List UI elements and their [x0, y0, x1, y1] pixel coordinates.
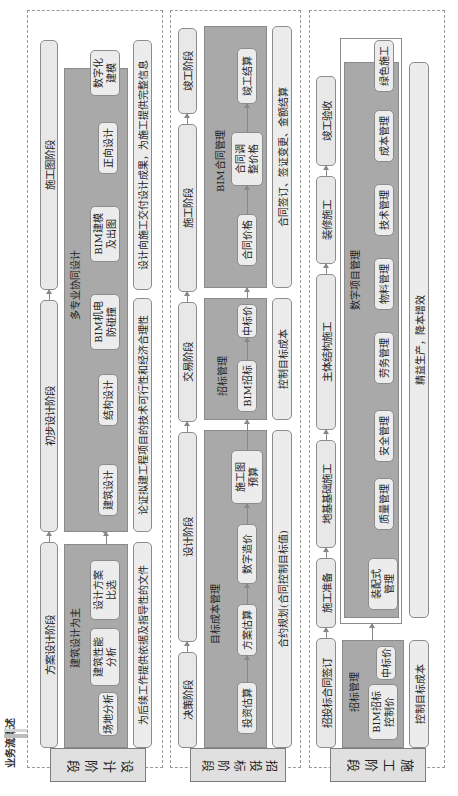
item-quality-management: 质量管理	[374, 478, 394, 530]
item-building-performance: 建筑性能 分析	[90, 628, 120, 686]
stage-label-design: 设计阶段	[50, 748, 146, 782]
note-control-cost-2: 控制目标成本	[409, 640, 429, 748]
arrow-icon	[106, 532, 107, 544]
phase-transaction: 交易阶段	[178, 302, 197, 422]
group-label: 招标管理	[346, 672, 361, 712]
arrow-icon	[187, 642, 188, 652]
phase-contract-signing: 招投标合同签订	[316, 638, 336, 748]
item-bim-control-price: BIM招标 控制价	[368, 684, 398, 740]
arrow-icon	[247, 104, 248, 132]
diagram-canvas: 业务流概述 设计阶段 方案设计阶段 初步设计阶段 施工图阶段 建筑设计为主 场地…	[0, 0, 458, 796]
item-scheme-estimate: 方案估算	[237, 604, 257, 656]
arrow-icon	[247, 288, 248, 298]
phase-construction: 施工阶段	[178, 124, 197, 292]
page-title: 业务流概述	[2, 718, 17, 768]
phase-completion: 竣工阶段	[178, 28, 197, 114]
arrow-icon	[247, 656, 248, 682]
arrow-icon	[247, 584, 248, 604]
phase-main-structure: 主体结构施工	[316, 274, 336, 430]
arrow-icon	[326, 264, 327, 274]
note-control-cost: 控制目标成本	[272, 298, 292, 420]
item-scheme-comparison: 设计方案 比选	[90, 560, 120, 620]
item-adjusted-price: 合同调 整价格	[231, 132, 263, 186]
arrow-icon	[187, 114, 188, 124]
item-site-analysis: 场地分析	[98, 692, 118, 736]
phase-preparation: 施工准备	[316, 558, 336, 628]
item-contract-price: 合同价格	[237, 214, 257, 266]
decorative-stripe	[4, 734, 28, 738]
arrow-icon	[326, 166, 327, 176]
item-forward-design: 正向设计	[98, 122, 118, 174]
item-green-construction: 绿色施工	[374, 40, 394, 92]
phase-construction-drawing: 施工图阶段	[40, 40, 58, 290]
item-winning-bid-2: 中标价	[376, 646, 396, 680]
arrow-icon	[326, 430, 327, 440]
item-structure: 结构设计	[98, 374, 118, 426]
phase-design: 设计阶段	[178, 432, 197, 642]
note-lean-production: 精益生产，降本增效	[409, 62, 429, 618]
arrow-icon	[187, 292, 188, 302]
item-architecture: 建筑设计	[98, 464, 118, 516]
item-bim-modeling: BIM建模 及出图	[90, 206, 120, 262]
item-investment-estimate: 投资估算	[237, 682, 257, 734]
group-label: 建筑设计为主	[67, 608, 82, 668]
note-scheme: 为后续工作提供依据及指导性的文件	[133, 542, 152, 748]
item-bim-mep-clash: BIM机电 防碰撞	[90, 294, 120, 350]
group-label: 招标管理	[214, 356, 229, 396]
stage-label-construction: 施工阶段	[330, 748, 426, 782]
group-label: 目标成本管理	[207, 584, 222, 644]
item-material-management: 物料管理	[374, 258, 394, 310]
decorative-stripe	[4, 729, 28, 732]
arrow-icon	[326, 548, 327, 558]
arrow-icon	[326, 628, 327, 638]
phase-decision: 决策阶段	[178, 652, 197, 748]
item-final-settlement: 竣工结算	[237, 48, 257, 104]
arrow-icon	[49, 290, 50, 300]
note-construction-drawing: 设计向施工交付设计成果，为施工提供完整信息	[133, 40, 152, 290]
item-technical-management: 技术管理	[374, 184, 394, 236]
group-label: 多专业协同设计	[67, 250, 82, 320]
note-preliminary: 论证拟建工程项目的技术可行性和经济合理性	[133, 298, 152, 532]
phase-acceptance: 竣工验收	[316, 76, 336, 166]
arrow-icon	[247, 186, 248, 214]
group-label: 数字项目管理	[347, 250, 362, 310]
arrow-icon	[187, 422, 188, 432]
phase-decoration: 装修施工	[316, 176, 336, 264]
item-prefab-management: 装配式 管理	[368, 558, 398, 610]
phase-scheme-design: 方案设计阶段	[40, 542, 58, 748]
arrow-icon	[372, 624, 373, 640]
arrow-icon	[49, 532, 50, 542]
item-winning-bid: 中标价	[237, 304, 257, 338]
item-digital-modeling: 数字化 建模	[90, 50, 120, 96]
phase-foundation: 地基基础施工	[316, 440, 336, 548]
item-safety-management: 安全管理	[374, 410, 394, 462]
note-contract-planning: 合约规划(合同控制目标值)	[272, 430, 292, 748]
note-contract-settlement: 合同签订、签证变更、金额结算	[272, 26, 292, 288]
item-bim-tender: BIM招标	[237, 360, 257, 412]
arrow-icon	[247, 504, 248, 524]
arrow-icon	[247, 420, 248, 450]
item-cost-management: 成本管理	[374, 110, 394, 162]
group-label: BIM合同管理	[212, 130, 227, 192]
item-drawing-budget: 施工图 预算	[231, 450, 263, 504]
item-labor-management: 劳务管理	[374, 332, 394, 384]
item-digital-cost: 数字造价	[237, 524, 257, 584]
arrow-icon	[247, 338, 248, 360]
phase-preliminary-design: 初步设计阶段	[40, 300, 58, 532]
stage-label-bidding: 招投标阶段	[190, 748, 286, 782]
